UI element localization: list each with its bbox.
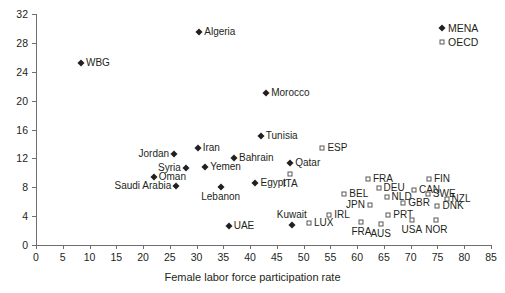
legend-label-oecd: OECD [448,37,478,48]
data-point-marker [409,218,414,223]
y-axis-tick-label: 32 [0,9,28,20]
y-axis-tick-label: 8 [0,182,28,193]
data-point-marker [426,176,431,181]
x-axis-tick [223,245,224,249]
x-axis-tick-label: 5 [60,252,66,263]
y-axis-tick [32,187,36,188]
data-point-label: ESP [327,143,347,153]
data-point-label: WBG [86,58,110,68]
x-axis-tick [357,245,358,249]
x-axis-tick-label: 75 [432,252,444,263]
data-point-marker [77,60,84,67]
y-axis-tick-label: 20 [0,95,28,106]
data-point-label: LUX [314,218,333,228]
y-axis-line [36,14,37,246]
x-axis-tick-label: 50 [298,252,310,263]
data-point-label: IRL [334,210,350,220]
scatter-chart: WBGAlgeriaMoroccoTunisiaIranJordanBahrai… [0,0,505,293]
y-axis-tick [32,245,36,246]
y-axis-tick [32,216,36,217]
x-axis-tick-label: 20 [137,252,149,263]
data-point-marker [288,172,293,177]
x-axis-tick [277,245,278,249]
data-point-marker [225,223,232,230]
x-axis-tick [63,245,64,249]
x-axis-tick-label: 35 [218,252,230,263]
data-point-label: FIN [434,174,450,184]
data-point-label: Bahrain [239,153,273,163]
data-point-marker [386,212,391,217]
x-axis-tick-label: 30 [191,252,203,263]
data-point-marker [411,188,416,193]
legend-label-mena: MENA [448,23,478,34]
data-point-label: Kuwait [277,210,307,220]
data-point-marker [202,163,209,170]
x-axis-tick-label: 70 [405,252,417,263]
y-axis-tick-label: 4 [0,211,28,222]
x-axis-tick [464,245,465,249]
y-axis-tick [32,158,36,159]
data-point-label: AUS [370,229,391,239]
y-axis-tick [32,14,36,15]
data-point-label: USA [401,225,422,235]
data-point-label: Saudi Arabia [115,181,172,191]
plot-area: WBGAlgeriaMoroccoTunisiaIranJordanBahrai… [0,0,505,293]
data-point-marker [307,221,312,226]
data-point-marker [401,201,406,206]
x-axis-tick [90,245,91,249]
x-axis-tick [411,245,412,249]
data-point-marker [365,176,370,181]
data-point-label: Lebanon [201,192,240,202]
data-point-marker [252,179,259,186]
y-axis-tick [32,43,36,44]
data-point-marker [194,145,201,152]
data-point-label: GBR [408,198,430,208]
x-axis-tick [250,245,251,249]
data-point-marker [434,218,439,223]
data-point-marker [376,185,381,190]
x-axis-tick [384,245,385,249]
x-axis-tick [170,245,171,249]
x-axis-tick-label: 60 [351,252,363,263]
x-axis-tick-label: 0 [33,252,39,263]
x-axis-line [36,245,492,246]
data-point-label: FRA [351,227,371,237]
data-point-label: BEL [349,189,368,199]
x-axis-tick [330,245,331,249]
data-point-label: Jordan [139,149,170,159]
x-axis-tick-label: 65 [378,252,390,263]
x-axis-tick [143,245,144,249]
data-point-label: ITA [283,179,298,189]
data-point-label: DNK [442,201,463,211]
data-point-marker [342,191,347,196]
data-point-label: Algeria [204,27,235,37]
x-axis-tick [116,245,117,249]
data-point-marker [384,195,389,200]
data-point-marker [287,160,294,167]
data-point-marker [257,132,264,139]
data-point-marker [359,219,364,224]
x-axis-tick-label: 85 [485,252,497,263]
x-axis-tick [491,245,492,249]
x-axis-tick-label: 25 [164,252,176,263]
x-axis-tick-label: 45 [271,252,283,263]
x-axis-tick [304,245,305,249]
y-axis-tick [32,72,36,73]
data-point-label: Tunisia [266,131,298,141]
data-point-marker [263,90,270,97]
x-axis-tick-label: 55 [325,252,337,263]
data-point-label: UAE [234,221,255,231]
y-axis-tick-label: 28 [0,38,28,49]
data-point-label: Yemen [210,162,241,172]
data-point-marker [288,221,295,228]
data-point-label: NOR [425,225,447,235]
data-point-marker [378,222,383,227]
data-point-marker [320,145,325,150]
x-axis-tick-label: 15 [110,252,122,263]
x-axis-tick [437,245,438,249]
x-axis-tick [36,245,37,249]
data-point-marker [217,184,224,191]
data-point-marker [171,150,178,157]
y-axis-tick-label: 12 [0,153,28,164]
data-point-label: Morocco [271,88,309,98]
